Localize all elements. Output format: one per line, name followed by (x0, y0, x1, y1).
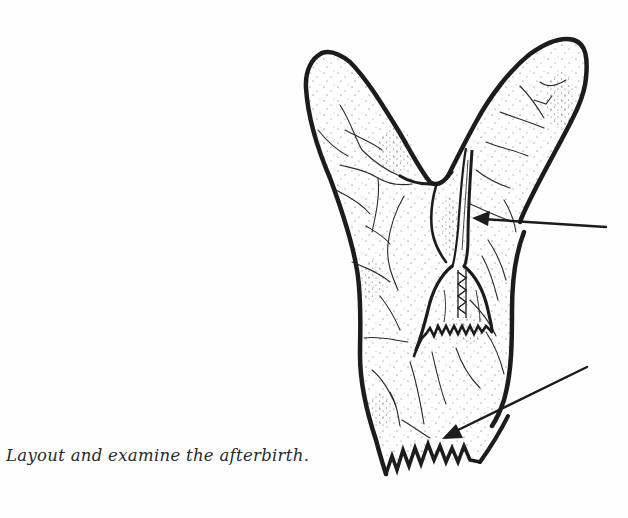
afterbirth-illustration: Layout and examine the afterbirth. (0, 0, 628, 518)
membrane-body (306, 39, 587, 474)
afterbirth-drawing (0, 0, 628, 518)
figure-caption: Layout and examine the afterbirth. (6, 446, 309, 465)
